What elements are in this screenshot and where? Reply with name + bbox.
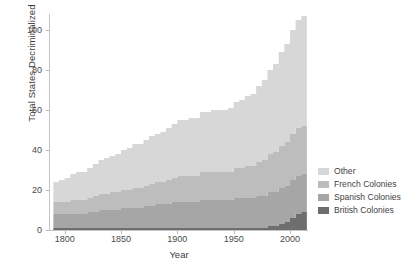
x-tick-mark bbox=[177, 231, 178, 234]
y-tick-label: 0 bbox=[12, 225, 42, 235]
legend-item[interactable]: French Colonies bbox=[318, 179, 416, 190]
y-tick-label: 100 bbox=[12, 25, 42, 35]
x-tick-mark bbox=[290, 231, 291, 234]
legend-item[interactable]: Spanish Colonies bbox=[318, 192, 416, 203]
y-tick-label: 40 bbox=[12, 145, 42, 155]
y-axis-line bbox=[49, 14, 50, 230]
legend-item-label: British Colonies bbox=[334, 205, 394, 216]
stacked-area-series bbox=[50, 14, 308, 230]
legend: OtherFrench ColoniesSpanish ColoniesBrit… bbox=[318, 166, 416, 218]
legend-swatch-icon bbox=[318, 194, 329, 201]
x-tick-label: 2000 bbox=[270, 234, 310, 244]
chart-canvas: Total States Decriminalized Year 0204060… bbox=[0, 0, 418, 271]
y-tick-label: 80 bbox=[12, 65, 42, 75]
legend-item[interactable]: Other bbox=[318, 166, 416, 177]
y-tick-label: 60 bbox=[12, 105, 42, 115]
y-axis-title: Total States Decriminalized bbox=[26, 0, 40, 158]
x-tick-mark bbox=[65, 231, 66, 234]
plot-area bbox=[50, 14, 308, 230]
x-tick-label: 1800 bbox=[45, 234, 85, 244]
x-tick-mark bbox=[234, 231, 235, 234]
legend-swatch-icon bbox=[318, 207, 329, 214]
x-tick-label: 1900 bbox=[157, 234, 197, 244]
legend-item-label: Spanish Colonies bbox=[334, 192, 401, 203]
legend-item-label: French Colonies bbox=[334, 179, 397, 190]
x-tick-label: 1950 bbox=[214, 234, 254, 244]
legend-swatch-icon bbox=[318, 168, 329, 175]
y-tick-label: 20 bbox=[12, 185, 42, 195]
x-axis-line bbox=[49, 230, 308, 231]
x-tick-mark bbox=[121, 231, 122, 234]
legend-item-label: Other bbox=[334, 166, 356, 177]
legend-swatch-icon bbox=[318, 181, 329, 188]
x-tick-label: 1850 bbox=[101, 234, 141, 244]
legend-item[interactable]: British Colonies bbox=[318, 205, 416, 216]
x-axis-title: Year bbox=[50, 249, 308, 260]
